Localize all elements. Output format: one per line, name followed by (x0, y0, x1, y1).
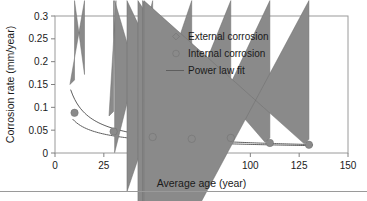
footer-divider (0, 191, 367, 192)
internal-corrosion-marker (71, 109, 78, 116)
internal-corrosion-marker (227, 134, 234, 141)
internal-corrosion-marker (149, 133, 156, 140)
y-tick-label: 0.3 (34, 11, 48, 22)
x-axis-title: Average age (year) (157, 177, 247, 189)
legend-circle-icon (173, 50, 180, 57)
internal-corrosion-marker (266, 139, 273, 146)
x-tick-label: 150 (340, 160, 357, 171)
external-corrosion-marker (70, 1, 85, 85)
y-tick-label: 0.05 (29, 125, 49, 136)
chart-figure: 00.050.10.150.20.250.3 0255075100125150 … (0, 0, 367, 201)
y-axis-title: Corrosion rate (mm/year) (4, 26, 16, 143)
x-tick-label: 0 (52, 160, 58, 171)
x-tick-label: 125 (291, 160, 308, 171)
y-tick-label: 0.1 (34, 102, 48, 113)
legend-label: Internal corrosion (188, 48, 265, 59)
internal-corrosion-marker (305, 141, 312, 148)
y-axis-ticks: 00.050.10.150.20.250.3 (29, 11, 55, 159)
x-tick-label: 100 (242, 160, 259, 171)
y-tick-label: 0.15 (29, 79, 49, 90)
legend-label: Power law fit (188, 65, 245, 76)
corrosion-rate-scatter-chart: 00.050.10.150.20.250.3 0255075100125150 … (0, 0, 367, 201)
y-tick-label: 0 (42, 148, 48, 159)
y-tick-label: 0.2 (34, 56, 48, 67)
x-tick-label: 25 (98, 160, 110, 171)
internal-corrosion-marker (110, 128, 117, 135)
y-tick-label: 0.25 (29, 33, 49, 44)
internal-corrosion-marker (188, 135, 195, 142)
legend-label: External corrosion (188, 31, 269, 42)
